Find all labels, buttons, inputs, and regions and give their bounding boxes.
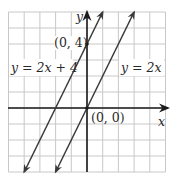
coordinate-graph: y x (0, 4) (0, 0) y = 2x + 4 y = 2x: [0, 0, 177, 186]
point-0-0-label: (0, 0): [91, 110, 125, 125]
line2-label: y = 2x: [120, 60, 162, 75]
point-0-0: [85, 106, 89, 110]
x-axis-label: x: [158, 114, 165, 129]
y-axis-label: y: [75, 9, 84, 24]
line1-label: y = 2x + 4: [10, 60, 78, 75]
point-0-4-label: (0, 4): [54, 35, 88, 50]
